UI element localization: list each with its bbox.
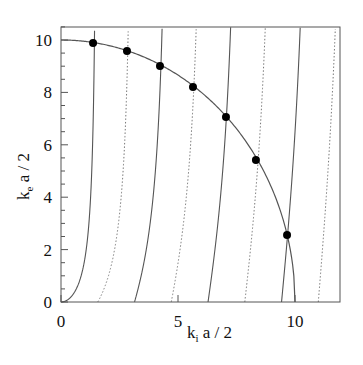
x-tick-label: 10 — [287, 312, 304, 331]
intersection-points — [89, 39, 291, 239]
y-axis-label: ke a / 2 — [14, 153, 35, 200]
intersection-dot — [156, 62, 164, 70]
odd-branch-curve — [98, 31, 128, 302]
even-branch-curve — [282, 28, 301, 302]
odd-branch-curve — [318, 29, 335, 302]
x-tick-label: 5 — [174, 312, 183, 331]
even-branch-curve — [208, 27, 231, 302]
intersection-dot — [123, 47, 131, 55]
y-tick-label: 2 — [44, 241, 53, 260]
intersection-dot — [283, 231, 291, 239]
intersection-dot — [222, 113, 230, 121]
x-axis-label: ki a / 2 — [187, 323, 232, 344]
x-tick-label: 0 — [57, 312, 66, 331]
even-branch-curve — [135, 29, 163, 302]
intersection-dot — [189, 83, 197, 91]
odd-branch-curve — [171, 29, 196, 302]
y-tick-label: 0 — [44, 293, 53, 312]
chart: 0246810 0510 ki a / 2 ke a / 2 — [0, 0, 363, 365]
odd-branch-curve — [245, 28, 265, 302]
curves — [61, 27, 335, 302]
y-axis: 0246810 — [35, 27, 68, 312]
y-tick-label: 8 — [44, 83, 53, 102]
even-branch-curve — [61, 31, 95, 302]
intersection-dot — [89, 39, 97, 47]
y-tick-label: 6 — [44, 136, 53, 155]
y-tick-label: 10 — [35, 31, 52, 50]
intersection-dot — [252, 156, 260, 164]
x-axis: 0510 — [57, 295, 304, 331]
y-tick-label: 4 — [44, 188, 53, 207]
